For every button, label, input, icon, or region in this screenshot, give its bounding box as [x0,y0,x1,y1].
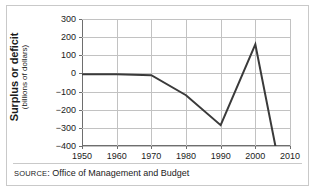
y-axis-title-main: Surplus or deficit [9,33,21,122]
plot-area: 3002001000−100−200−300−400 1950196019701… [82,19,290,146]
data-series-line [82,19,290,146]
gridline-vertical [290,19,291,146]
y-tick-label: 300 [36,14,76,24]
y-tick-label: −400 [36,141,76,151]
x-tick-mark [117,146,118,149]
y-tick-label: 200 [36,32,76,42]
source-value: Office of Management and Budget [52,168,189,178]
x-tick-mark [290,146,291,149]
x-tick-mark [151,146,152,149]
y-axis-title: Surplus or deficit (billions of dollars) [8,14,30,140]
y-tick-label: −100 [36,87,76,97]
y-tick-label: 100 [36,50,76,60]
y-tick-label: −300 [36,123,76,133]
source-divider [13,163,302,164]
x-tick-label: 2010 [268,151,312,161]
chart-figure: Surplus or deficit (billions of dollars)… [0,0,315,192]
x-tick-mark [186,146,187,149]
y-tick-label: −200 [36,105,76,115]
source-label: SOURCE [14,169,47,178]
series-polyline [82,44,276,149]
x-tick-mark [221,146,222,149]
source-note: SOURCE: Office of Management and Budget [14,168,189,178]
x-tick-mark [255,146,256,149]
y-axis-title-units: (billions of dollars) [21,33,29,122]
x-tick-mark [82,146,83,149]
y-tick-label: 0 [36,68,76,78]
